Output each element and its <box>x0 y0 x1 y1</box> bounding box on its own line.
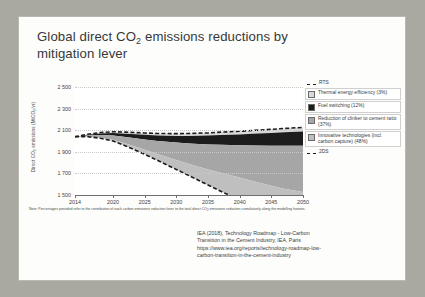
x-axis-tick-label: 2020 <box>98 199 128 205</box>
legend-item[interactable]: Thermal energy efficiency (3%) <box>305 88 401 100</box>
gridline <box>75 173 303 174</box>
series-graphics <box>75 87 303 195</box>
y-axis-tick-label: 1 500 <box>41 192 71 198</box>
legend-item[interactable]: Fuel switching (12%) <box>305 101 401 113</box>
legend-item[interactable]: Innovative technologies (incl. carbon ca… <box>305 131 401 147</box>
page-title: Global direct CO2 emissions reductions b… <box>37 29 347 62</box>
y-axis-tick-label: 2 500 <box>41 84 71 90</box>
x-axis-tick-mark <box>240 195 241 198</box>
x-axis-tick-mark <box>113 195 114 198</box>
gridline <box>75 87 303 88</box>
gridline <box>75 152 303 153</box>
plot-region <box>75 87 303 195</box>
x-axis-tick-label: 2045 <box>256 199 286 205</box>
gridline <box>75 109 303 110</box>
slide: Global direct CO2 emissions reductions b… <box>18 16 406 281</box>
x-axis-tick-label: 2040 <box>225 199 255 205</box>
y-axis-title-a: Direct CO <box>31 151 36 172</box>
title-text-line2: mitigation lever <box>37 46 127 61</box>
legend-swatch-icon <box>308 134 315 141</box>
y-axis-title-c: /yr) <box>31 102 36 109</box>
y-axis-title-b: emissions (MtCO <box>31 111 36 149</box>
y-axis-tick-label: 1 900 <box>41 149 71 155</box>
chart-footnote: Note: Percentages provided refer to the … <box>29 207 329 212</box>
x-axis-tick-label: 2035 <box>193 199 223 205</box>
y-axis-tick-label: 2 300 <box>41 106 71 112</box>
x-axis-tick-label: 2050 <box>288 199 318 205</box>
x-axis-tick-mark <box>271 195 272 198</box>
x-axis-tick-mark <box>176 195 177 198</box>
title-text-part1: Global direct CO <box>37 29 136 44</box>
source-url-line-2[interactable]: carbon-transition-in-the-cement-industry <box>197 252 291 258</box>
source-citation: IEA (2018), Technology Roadmap - Low-Car… <box>197 230 397 260</box>
source-url-line-1[interactable]: https://www.iea.org/reports/technology-r… <box>197 245 321 251</box>
x-axis-tick-label: 2025 <box>130 199 160 205</box>
footnote-suffix: emissions reduction cumulatively along t… <box>209 207 306 211</box>
screenshot-canvas: Global direct CO2 emissions reductions b… <box>0 0 425 297</box>
footnote-subscript: 2 <box>207 208 209 212</box>
gridline <box>75 130 303 131</box>
x-axis-tick-label: 2014 <box>60 199 90 205</box>
legend-item[interactable]: Reduction of clinker to cement ratio (37… <box>305 114 401 130</box>
x-axis-line <box>75 195 303 196</box>
legend-label: RTS <box>319 80 329 86</box>
x-axis-tick-mark <box>303 195 304 198</box>
title-subscript: 2 <box>136 36 141 46</box>
legend-swatch-icon <box>308 91 315 98</box>
y-axis-tick-label: 1 700 <box>41 170 71 176</box>
legend-dashed-line-icon <box>307 84 316 85</box>
x-axis-tick-mark <box>145 195 146 198</box>
legend-label: Thermal energy efficiency (3%) <box>318 90 387 96</box>
legend-swatch-icon <box>308 117 315 124</box>
title-text-part2: emissions reductions by <box>141 29 288 44</box>
legend-label: Reduction of clinker to cement ratio (37… <box>318 116 398 128</box>
legend-item[interactable]: RTS <box>305 79 401 87</box>
x-axis-tick-mark <box>208 195 209 198</box>
y-axis-title-sub2: 2 <box>33 109 37 111</box>
source-line-2: Transition in the Cement Industry, IEA, … <box>197 237 301 243</box>
legend-label: Innovative technologies (incl. carbon ca… <box>318 133 398 145</box>
x-axis-tick-label: 2030 <box>161 199 191 205</box>
y-axis-tick-label: 2 100 <box>41 127 71 133</box>
footnote-prefix: Note: Percentages provided refer to the … <box>29 207 207 211</box>
legend-label: 2DS <box>319 149 329 155</box>
legend-dashed-line-icon <box>307 153 316 154</box>
x-axis-tick-mark <box>75 195 76 198</box>
y-axis-title-sub1: 2 <box>33 149 37 151</box>
chart-legend: RTSThermal energy efficiency (3%)Fuel sw… <box>305 79 401 157</box>
source-line-1: IEA (2018), Technology Roadmap - Low-Car… <box>197 230 310 236</box>
legend-label: Fuel switching (12%) <box>318 103 364 109</box>
legend-item[interactable]: 2DS <box>305 148 401 156</box>
legend-swatch-icon <box>308 104 315 111</box>
